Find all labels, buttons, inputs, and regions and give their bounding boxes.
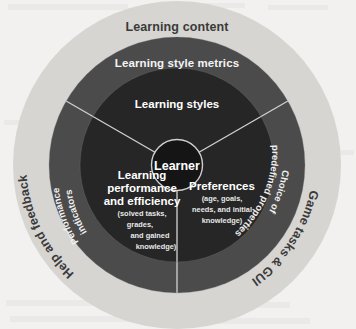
sector-title-preferences: Preferences — [189, 180, 255, 192]
sector-sub-pref-line-2: needs, and initial — [192, 205, 252, 214]
sector-sub-line-3: and gained — [130, 231, 169, 240]
middle-label-learning-style-metrics: Learning style metrics — [115, 57, 239, 69]
sector-sub-line-1: (solved tasks, — [118, 209, 167, 218]
diagram-canvas: Learning content Game tasks & GUI Help a… — [0, 0, 356, 329]
concentric-ring-diagram: Learning content Game tasks & GUI Help a… — [0, 0, 356, 329]
sector-title-learning-styles: Learning styles — [135, 98, 219, 110]
sector-title-line-2: performance — [107, 182, 177, 194]
sector-sub-line-4: knowledge) — [136, 242, 177, 251]
sector-sub-line-2: grades, — [127, 220, 153, 229]
outer-label-learning-content: Learning content — [126, 20, 230, 34]
sector-title-line-1: Learning — [118, 169, 167, 181]
sector-sub-pref-line-3: knowledge) — [202, 216, 243, 225]
sector-sub-pref-line-1: (age, goals, — [202, 194, 243, 203]
sector-title-line-3: and efficiency — [104, 195, 181, 207]
